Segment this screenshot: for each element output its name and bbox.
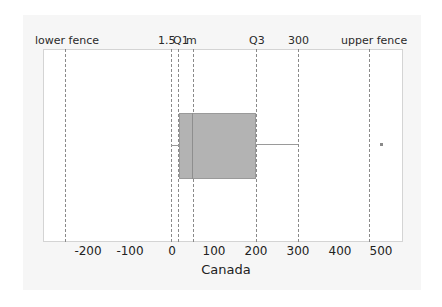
upper-whisker (256, 144, 298, 145)
x-tick: -200 (74, 244, 101, 258)
x-tick: 100 (203, 244, 226, 258)
x-axis-label: Canada (201, 262, 250, 277)
lower-fence-label: lower fence (35, 34, 99, 47)
x-tick: 0 (168, 244, 176, 258)
x-tick: 500 (370, 244, 393, 258)
upper-fence-label: upper fence (341, 34, 407, 47)
three-hundred-label: 300 (288, 34, 309, 47)
lower-fence-line (65, 49, 66, 242)
lower-whisker (171, 145, 179, 146)
x-tick: 300 (287, 244, 310, 258)
three-hundred-line (298, 49, 299, 242)
q3-label: Q3 (249, 34, 265, 47)
x-tick: 200 (245, 244, 268, 258)
x-tick: -100 (116, 244, 143, 258)
median-marker (192, 113, 193, 179)
upper-fence-line (369, 49, 370, 242)
q3-line (256, 49, 257, 242)
outlier-point (380, 143, 383, 146)
x-tick: 400 (329, 244, 352, 258)
iqr-box (179, 113, 256, 179)
median-label: m (186, 34, 197, 47)
